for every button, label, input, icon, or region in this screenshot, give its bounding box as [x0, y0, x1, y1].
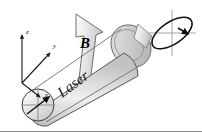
beam-front-face — [22, 89, 54, 121]
polarization-ellipse — [147, 10, 197, 56]
magnetic-field-label: B — [79, 35, 90, 51]
axis-label-y: y — [52, 42, 57, 50]
diagram-svg: z y x B Laser — [0, 0, 202, 134]
axis-line-y — [22, 53, 50, 83]
coordinate-axes: z y x — [22, 28, 57, 99]
figure-canvas: z y x B Laser — [0, 0, 202, 134]
axis-label-z: z — [25, 28, 29, 36]
bottom-divider — [0, 131, 202, 132]
